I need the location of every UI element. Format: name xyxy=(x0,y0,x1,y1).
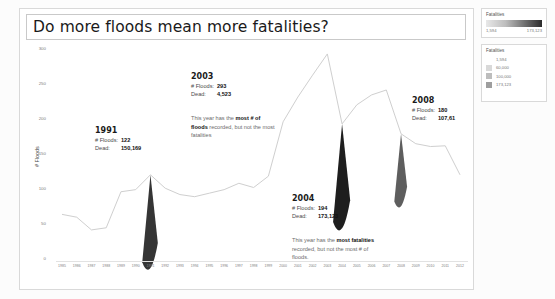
annotation-floods: # Floods:180 xyxy=(412,106,455,114)
annotation-year: 2003 xyxy=(191,71,231,82)
x-tick-1999: 1999 xyxy=(264,264,272,268)
annotation-floods: # Floods:293 xyxy=(191,82,231,90)
x-tick-1993: 1993 xyxy=(176,264,184,268)
legend-step-value: 173,123 xyxy=(496,82,511,87)
x-tick-2006: 2006 xyxy=(368,264,376,268)
y-tick-50: 50 xyxy=(41,221,46,226)
x-axis: 1985198619871988198919901991199219931994… xyxy=(56,262,468,276)
x-tick-1988: 1988 xyxy=(102,264,110,268)
x-tick-1986: 1986 xyxy=(73,264,81,268)
legend-swatch xyxy=(486,73,492,79)
legend-step-item[interactable]: 1,594 xyxy=(486,56,542,62)
annotation-year: 2008 xyxy=(412,95,455,106)
x-tick-2009: 2009 xyxy=(412,264,420,268)
legend-gradient[interactable]: Fatalities 1,594 173,123 xyxy=(481,8,547,38)
x-tick-1985: 1985 xyxy=(58,264,66,268)
y-tick-250: 250 xyxy=(39,81,46,86)
fatality-wedge-2008 xyxy=(394,134,407,208)
x-tick-1996: 1996 xyxy=(220,264,228,268)
annotation-dead: Dead:107,61 xyxy=(412,114,455,122)
annotation-floods: # Floods:122 xyxy=(95,136,141,144)
y-tick-100: 100 xyxy=(39,186,46,191)
legend-step-value: 60,000 xyxy=(496,65,509,70)
worksheet-panel: Do more floods mean more fatalities? # F… xyxy=(19,8,474,290)
fatality-wedge-1991 xyxy=(142,175,158,270)
x-tick-2010: 2010 xyxy=(427,264,435,268)
legend-swatch xyxy=(486,56,492,62)
annotation-dead: Dead:4,523 xyxy=(191,90,231,98)
legend-panel: Fatalities 1,594 173,123 Fatalities 1,59… xyxy=(481,8,547,120)
legend-swatch xyxy=(486,82,492,88)
annotation-1991[interactable]: 1991 # Floods:122 Dead:150,169 xyxy=(95,125,141,153)
annotation-floods: # Floods:194 xyxy=(292,204,338,212)
y-axis-label: # Floods xyxy=(34,146,40,167)
x-tick-1992: 1992 xyxy=(161,264,169,268)
x-tick-1994: 1994 xyxy=(191,264,199,268)
x-tick-2012: 2012 xyxy=(456,264,464,268)
x-tick-1990: 1990 xyxy=(132,264,140,268)
line-chart-plot xyxy=(56,49,466,261)
annotation-note-2003: This year has the most # of floods recor… xyxy=(191,114,277,140)
x-tick-1991: 1991 xyxy=(147,264,155,268)
y-tick-0: 0 xyxy=(44,256,46,261)
x-tick-2001: 2001 xyxy=(294,264,302,268)
x-tick-2000: 2000 xyxy=(279,264,287,268)
y-tick-300: 300 xyxy=(39,46,46,51)
legend-gradient-ramp xyxy=(486,20,542,27)
y-axis: # Floods 300 250 200 150 100 50 0 xyxy=(20,49,48,261)
y-tick-150: 150 xyxy=(39,151,46,156)
legend-gradient-max: 173,123 xyxy=(527,28,542,33)
annotation-year: 1991 xyxy=(95,125,141,136)
legend-gradient-min: 1,594 xyxy=(486,28,496,33)
annotation-2003[interactable]: 2003 # Floods:293 Dead:4,523 xyxy=(191,71,231,99)
legend-steps-title: Fatalities xyxy=(486,48,542,53)
x-tick-2004: 2004 xyxy=(338,264,346,268)
y-tick-200: 200 xyxy=(39,116,46,121)
page-title: Do more floods mean more fatalities? xyxy=(33,18,329,36)
x-tick-1989: 1989 xyxy=(117,264,125,268)
annotation-note-2004: This year has the most fatalities record… xyxy=(292,236,378,262)
x-tick-2005: 2005 xyxy=(353,264,361,268)
flood-line-series xyxy=(56,49,466,261)
x-tick-2003: 2003 xyxy=(323,264,331,268)
annotation-year: 2004 xyxy=(292,193,338,204)
annotation-dead: Dead:150,169 xyxy=(95,144,141,152)
x-tick-1997: 1997 xyxy=(235,264,243,268)
x-tick-2002: 2002 xyxy=(309,264,317,268)
legend-step-item[interactable]: 100,000 xyxy=(486,73,542,79)
legend-step-item[interactable]: 60,000 xyxy=(486,65,542,71)
x-tick-1987: 1987 xyxy=(88,264,96,268)
x-tick-1998: 1998 xyxy=(250,264,258,268)
legend-gradient-labels: 1,594 173,123 xyxy=(486,28,542,33)
chart-title-box[interactable]: Do more floods mean more fatalities? xyxy=(26,14,466,40)
legend-step-item[interactable]: 173,123 xyxy=(486,82,542,88)
legend-gradient-title: Fatalities xyxy=(486,12,542,17)
annotation-dead: Dead:173,123 xyxy=(292,212,338,220)
dashboard-root: Do more floods mean more fatalities? # F… xyxy=(0,0,555,299)
legend-step-list: 1,59460,000100,000173,123 xyxy=(486,56,542,88)
legend-step-value: 1,594 xyxy=(496,57,506,62)
x-tick-2008: 2008 xyxy=(397,264,405,268)
x-tick-2007: 2007 xyxy=(382,264,390,268)
legend-step-value: 100,000 xyxy=(496,74,511,79)
legend-swatch xyxy=(486,65,492,71)
annotation-2004[interactable]: 2004 # Floods:194 Dead:173,123 xyxy=(292,193,338,221)
legend-steps[interactable]: Fatalities 1,59460,000100,000173,123 xyxy=(481,44,547,102)
x-tick-1995: 1995 xyxy=(206,264,214,268)
annotation-2008[interactable]: 2008 # Floods:180 Dead:107,61 xyxy=(412,95,455,123)
x-tick-2011: 2011 xyxy=(441,264,449,268)
